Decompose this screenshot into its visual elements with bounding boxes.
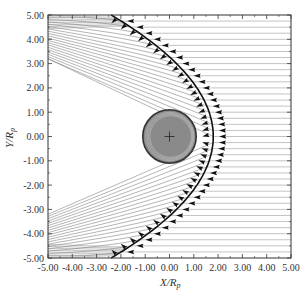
arrow-icon: [199, 80, 206, 84]
x-tick-label: -5.00: [38, 262, 59, 273]
y-axis-title: Y/Rp: [3, 128, 17, 148]
arrow-icon: [162, 43, 169, 47]
y-tick-label: 3.00: [27, 58, 45, 69]
y-tick-label: 1.00: [27, 107, 45, 118]
arrow-icon: [154, 37, 161, 41]
x-tick-label: 4.00: [258, 262, 276, 273]
arrow-icon: [213, 104, 220, 108]
y-tick-label: -2.00: [23, 180, 44, 191]
y-tick-label: -1.00: [23, 155, 44, 166]
downstream-streamline: [48, 149, 212, 217]
y-tick-label: 2.00: [27, 82, 45, 93]
arrow-icon: [176, 213, 183, 217]
x-axis-title: X/Rp: [159, 276, 181, 290]
arrow-icon: [219, 128, 226, 132]
y-tick-label: 5.00: [27, 10, 45, 21]
arrow-icon: [219, 134, 226, 138]
x-tick-label: 1.00: [185, 262, 203, 273]
arrow-icon: [210, 98, 217, 102]
arrow-icon: [218, 146, 225, 150]
bow-shock-streamline-chart: -5.00-4.00-3.00-2.00-1.000.001.002.003.0…: [0, 0, 308, 299]
x-tick-label: 5.00: [282, 262, 300, 273]
arrow-icon: [202, 133, 210, 139]
arrow-icon: [215, 110, 222, 114]
arrow-icon: [193, 96, 201, 103]
x-tick-label: 3.00: [234, 262, 252, 273]
arrow-icon: [219, 140, 226, 144]
arrow-icon: [189, 176, 197, 183]
x-tick-label: -4.00: [62, 262, 83, 273]
arrow-icon: [127, 19, 134, 23]
arrow-icon: [201, 140, 209, 146]
arrow-icon: [169, 49, 176, 53]
arrow-icon: [145, 238, 152, 242]
arrow-icon: [137, 25, 144, 29]
x-tick-label: -1.00: [135, 262, 156, 273]
arrow-icon: [194, 195, 201, 199]
y-tick-label: 0.00: [27, 131, 45, 142]
arrow-icon: [189, 90, 197, 97]
arrow-icon: [207, 177, 214, 181]
downstream-streamline: [48, 57, 212, 125]
arrow-icon: [193, 170, 201, 177]
arrow-icon: [188, 67, 195, 71]
x-tick-label: -2.00: [110, 262, 131, 273]
downstream-streamline: [48, 27, 156, 46]
arrow-icon: [145, 31, 152, 35]
downstream-streamline: [48, 167, 207, 223]
arrow-icon: [182, 61, 189, 65]
y-tick-label: 4.00: [27, 34, 45, 45]
arrow-icon: [213, 165, 220, 169]
arrow-icon: [182, 207, 189, 211]
arrow-icon: [194, 74, 201, 78]
arrow-icon: [199, 189, 206, 193]
arrow-icon: [218, 122, 225, 126]
arrow-icon: [188, 201, 195, 205]
arrow-icon: [203, 86, 210, 90]
arrow-icon: [217, 116, 224, 120]
arrow-icon: [210, 171, 217, 175]
planet-body: [143, 110, 196, 163]
arrow-icon: [203, 183, 210, 187]
x-tick-label: 2.00: [209, 262, 227, 273]
arrow-icon: [217, 153, 224, 157]
downstream-streamline: [48, 43, 197, 88]
arrow-icon: [215, 159, 222, 163]
y-tick-label: -4.00: [23, 228, 44, 239]
y-tick-label: -3.00: [23, 204, 44, 215]
x-tick-label: 0.00: [161, 262, 179, 273]
arrow-icon: [162, 225, 169, 229]
arrow-icon: [207, 92, 214, 96]
arrow-icon: [176, 55, 183, 59]
downstream-streamline: [48, 50, 207, 106]
y-tick-label: -5.00: [23, 253, 44, 264]
downstream-streamline: [48, 228, 156, 247]
arrow-icon: [127, 250, 134, 254]
arrow-icon: [137, 244, 144, 248]
x-tick-label: -3.00: [86, 262, 107, 273]
arrow-icon: [154, 232, 161, 236]
downstream-streamline: [48, 185, 197, 230]
arrow-icon: [169, 219, 176, 223]
